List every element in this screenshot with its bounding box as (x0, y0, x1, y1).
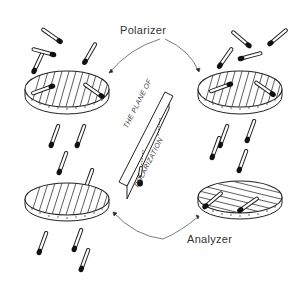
polarizer-label: Polarizer (120, 24, 166, 36)
analyzer-bottom-right (195, 137, 285, 224)
analyzer-label: Analyzer (187, 233, 232, 245)
polarization-diagram: THE PLANE OF POLARIZATION Polarizer Anal… (0, 0, 306, 282)
incoming-ray-icon (216, 28, 288, 69)
plane-of-polarization-sign (119, 92, 173, 199)
output-ray-icon (36, 229, 91, 273)
polarizer-top-left (25, 28, 112, 149)
incoming-ray-icon (30, 28, 97, 75)
transmitted-ray-icon (217, 120, 257, 149)
analyzer-bottom-left (25, 152, 112, 273)
transmitted-ray-icon (209, 137, 249, 174)
transmitted-ray-icon (48, 125, 87, 149)
diagram-svg (0, 0, 306, 282)
polarizer-top-right (198, 28, 287, 149)
polarizer-leader-lines (109, 39, 200, 73)
